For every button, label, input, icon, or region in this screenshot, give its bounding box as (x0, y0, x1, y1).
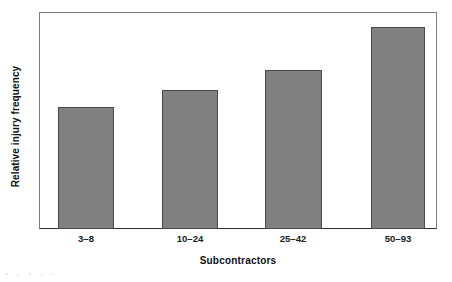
x-tick-label: 50–93 (385, 233, 411, 244)
bar-chart-figure: Relative injury frequency 3–8 10–24 25–4… (0, 0, 452, 282)
bar-series (39, 12, 437, 229)
y-axis-title: Relative injury frequency (0, 12, 30, 241)
x-tick-label: 10–24 (177, 233, 203, 244)
x-tick-label: 3–8 (78, 233, 94, 244)
bar-25-42 (265, 70, 322, 229)
bar-3-8 (58, 107, 114, 229)
scan-artifact (4, 272, 58, 277)
bar-10-24 (162, 90, 218, 229)
x-tick-label: 25–42 (280, 233, 306, 244)
x-axis-tick-labels: 3–8 10–24 25–42 50–93 (39, 233, 437, 249)
x-axis-title: Subcontractors (39, 255, 437, 266)
bar-50-93 (371, 27, 425, 229)
